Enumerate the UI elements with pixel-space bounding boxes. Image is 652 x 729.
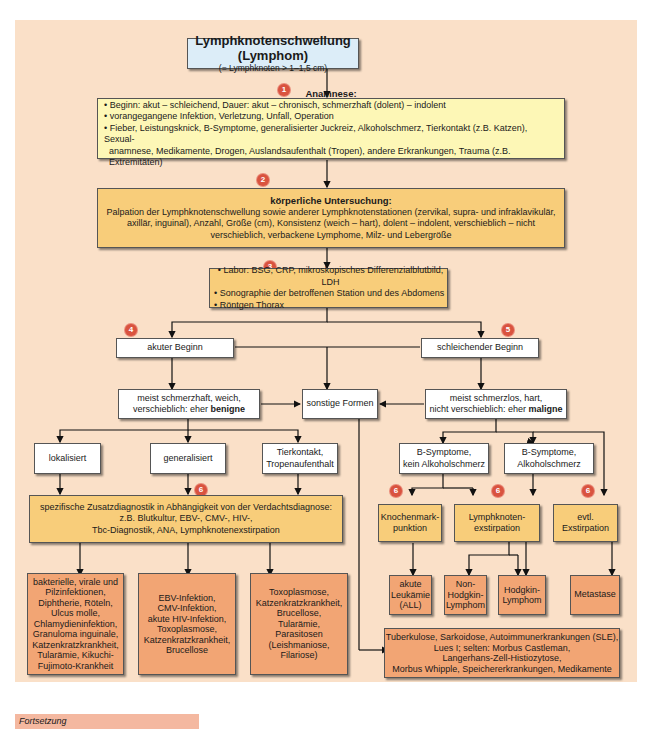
result-line: Tularämie, bbox=[278, 619, 320, 630]
result-line: Lues I; selten: Morbus Castleman, bbox=[434, 643, 571, 654]
result-line: Tuberkulose, Sarkoidose, Autoimmunerkran… bbox=[386, 632, 618, 643]
result-line: Non- bbox=[456, 579, 476, 590]
result-sonstige-box: Tuberkulose, Sarkoidose, Autoimmunerkran… bbox=[384, 628, 620, 678]
step-badge-4: 4 bbox=[125, 324, 137, 336]
result-line: Morbus Whipple, Speichererkrankungen, Me… bbox=[392, 664, 612, 675]
generalisiert-label: generalisiert bbox=[163, 453, 212, 465]
zusatz-line: z.B. Blutkultur, EBV-, CMV-, HIV-, bbox=[119, 513, 252, 525]
schleichender-beginn-label: schleichender Beginn bbox=[437, 342, 523, 354]
akuter-beginn-label: akuter Beginn bbox=[147, 342, 203, 354]
sonstige-formen-box: sonstige Formen bbox=[302, 389, 378, 419]
result-line: Katzenkratzkrankheit, bbox=[256, 598, 343, 609]
result-line: Katzenkratzkrankheit, bbox=[144, 635, 231, 646]
labor-box: • Labor: BSG, CRP, mikroskopisches Diffe… bbox=[209, 268, 448, 308]
labor-item: • Röntgen Thorax bbox=[214, 300, 284, 312]
step-badge-6-knochenmark: 6 bbox=[390, 485, 402, 497]
result-tier-box: Toxoplasmose, Katzenkratzkrankheit, Bruc… bbox=[250, 573, 348, 675]
result-line: Parasitosen bbox=[275, 629, 323, 640]
anamnese-item: • Beginn: akut – schleichend, Dauer: aku… bbox=[104, 100, 558, 112]
result-nhl-box: Non- Hodgkin- Lymphom bbox=[444, 575, 487, 615]
result-line: Lymphom bbox=[446, 600, 485, 611]
benigne-bold: benigne bbox=[211, 404, 246, 414]
continuation-bar: Fortsetzung bbox=[15, 714, 199, 729]
anamnese-item: anamnese, Medikamente, Drogen, Auslandsa… bbox=[104, 146, 558, 169]
schleichender-beginn-box: schleichender Beginn bbox=[421, 338, 539, 358]
evtl-line1: evtl. bbox=[577, 512, 594, 524]
b-alkohol-line2: Alkoholschmerz bbox=[517, 459, 581, 471]
result-line: Diphtherie, Röteln, bbox=[38, 598, 113, 609]
result-line: Pilzinfektionen, bbox=[45, 587, 106, 598]
result-line: Lymphom bbox=[502, 595, 541, 606]
akuter-beginn-box: akuter Beginn bbox=[116, 338, 234, 358]
tierkontakt-box: Tierkontakt, Tropenaufenthalt bbox=[262, 443, 338, 474]
anamnese-heading: Anamnese: bbox=[104, 88, 558, 100]
result-lokal-box: bakterielle, virale und Pilzinfektionen,… bbox=[27, 573, 124, 675]
result-line: EBV-Infektion, bbox=[158, 593, 215, 604]
benigne-box: meist schmerzhaft, weich, verschieblich:… bbox=[118, 389, 260, 419]
result-line: Chlamydieninfektion, bbox=[34, 619, 118, 630]
result-line: (Leishmaniose, bbox=[268, 640, 329, 651]
maligne-bold: maligne bbox=[529, 404, 563, 414]
labor-item: • Sonographie der betroffenen Station un… bbox=[214, 288, 444, 300]
labor-item: • Labor: BSG, CRP, mikroskopisches Diffe… bbox=[214, 265, 447, 288]
step-badge-6-lymphknoten: 6 bbox=[492, 485, 504, 497]
maligne-box: meist schmerzlos, hart, nicht verschiebl… bbox=[425, 389, 567, 419]
generalisiert-box: generalisiert bbox=[150, 443, 226, 474]
title-sub: (= Lymphknoten > 1–1,5 cm) bbox=[219, 63, 327, 75]
untersuchung-text: Palpation der Lymphknotenschwellung sowi… bbox=[104, 207, 558, 242]
title-main: Lymphknotenschwellung (Lymphom) bbox=[188, 33, 358, 63]
maligne-line1: meist schmerzlos, hart, bbox=[450, 393, 543, 405]
result-line: akute bbox=[399, 579, 421, 590]
result-line: Filariose) bbox=[280, 650, 317, 661]
result-line: Granuloma inguinale, bbox=[33, 629, 119, 640]
result-line: Metastase bbox=[574, 589, 616, 601]
b-alkohol-line1: B-Symptome, bbox=[522, 447, 577, 459]
b-alkohol-box: B-Symptome, Alkoholschmerz bbox=[504, 443, 594, 474]
tierkontakt-line1: Tierkontakt, bbox=[277, 447, 324, 459]
result-hodgkin-box: Hodgkin- Lymphom bbox=[498, 575, 546, 615]
result-line: Brucellose bbox=[166, 645, 208, 656]
result-line: CMV-Infektion, bbox=[157, 603, 216, 614]
anamnese-item: • vorangegangene Infektion, Verletzung, … bbox=[104, 111, 558, 123]
evtl-line2: Exstirpation bbox=[562, 523, 609, 535]
result-line: Hodgkin- bbox=[447, 590, 483, 601]
result-line: (ALL) bbox=[399, 600, 421, 611]
result-line: Katzenkratzkrankheit, bbox=[32, 640, 119, 651]
lokalisiert-box: lokalisiert bbox=[34, 443, 101, 474]
lk-line1: Lymphknoten- bbox=[469, 512, 526, 524]
result-line: Brucellose, bbox=[277, 608, 322, 619]
result-line: Fujimoto-Krankheit bbox=[38, 661, 114, 672]
knochenmark-line1: Knochenmark- bbox=[381, 512, 440, 524]
result-line: Toxoplasmose, bbox=[157, 624, 217, 635]
knochenmark-line2: punktion bbox=[393, 523, 427, 535]
maligne-line2: nicht verschieblich: eher bbox=[429, 404, 528, 414]
step-badge-6-evtl: 6 bbox=[582, 485, 594, 497]
lk-line2: exstirpation bbox=[474, 523, 520, 535]
result-all-box: akute Leukämie (ALL) bbox=[389, 575, 432, 615]
result-line: Tularämie, Kikuchi- bbox=[37, 650, 114, 661]
zusatz-line: Tbc-Diagnostik, ANA, Lymphknotenexstirpa… bbox=[92, 525, 280, 537]
knochenmark-box: Knochenmark- punktion bbox=[378, 504, 442, 542]
step-badge-2: 2 bbox=[257, 174, 269, 186]
untersuchung-box: körperliche Untersuchung: Palpation der … bbox=[97, 188, 565, 248]
sonstige-formen-label: sonstige Formen bbox=[306, 398, 373, 410]
lokalisiert-label: lokalisiert bbox=[49, 453, 87, 465]
b-kein-line2: kein Alkoholschmerz bbox=[403, 459, 485, 471]
anamnese-box: Anamnese: • Beginn: akut – schleichend, … bbox=[97, 98, 565, 159]
tierkontakt-line2: Tropenaufenthalt bbox=[266, 459, 334, 471]
result-line: Leukämie bbox=[391, 590, 430, 601]
result-line: akute HIV-Infektion, bbox=[148, 614, 227, 625]
zusatz-line: spezifische Zusatzdiagnostik in Abhängig… bbox=[40, 502, 332, 514]
b-kein-alkohol-box: B-Symptome, kein Alkoholschmerz bbox=[399, 443, 489, 474]
result-line: Toxoplasmose, bbox=[269, 587, 329, 598]
result-line: Hodgkin- bbox=[504, 585, 540, 596]
benigne-line1: meist schmerzhaft, weich, bbox=[137, 393, 241, 405]
continuation-label: Fortsetzung bbox=[19, 716, 67, 726]
lymphknoten-exstirpation-box: Lymphknoten- exstirpation bbox=[454, 504, 540, 542]
zusatzdiagnostik-box: spezifische Zusatzdiagnostik in Abhängig… bbox=[29, 495, 343, 543]
result-line: bakterielle, virale und bbox=[33, 577, 118, 588]
untersuchung-heading: körperliche Untersuchung: bbox=[270, 195, 391, 207]
result-line: Langerhans-Zell-Histiozytose, bbox=[442, 653, 561, 664]
evtl-exstirpation-box: evtl. Exstirpation bbox=[553, 504, 618, 542]
anamnese-item: • Fieber, Leistungsknick, B-Symptome, ge… bbox=[104, 123, 558, 146]
